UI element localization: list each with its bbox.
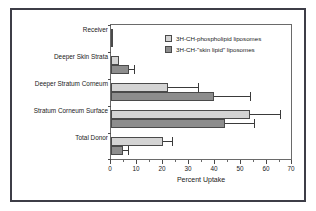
errorcap-total-donor-phospholipid	[172, 137, 173, 146]
legend-label-phospholipid: 3H-CH-phospholipid liposomes	[176, 35, 261, 42]
y-axis-label-2: Deeper Stratum Corneum	[35, 80, 108, 88]
bar-row-dss-dark	[111, 65, 291, 74]
errorcap-deeper-stratum-corneum-phospholipid	[198, 83, 199, 92]
x-tick-40	[214, 160, 215, 164]
x-tick-label-10: 10	[132, 165, 139, 172]
legend-item-phospholipid[interactable]: 3H-CH-phospholipid liposomes	[165, 33, 293, 43]
x-tick-label-0: 0	[108, 165, 112, 172]
x-tick-minor-35	[201, 160, 202, 162]
x-tick-label-50: 50	[236, 165, 243, 172]
errorcap-stratum-corneum-surface-phospholipid	[280, 110, 281, 119]
x-tick-10	[136, 160, 137, 164]
x-tick-60	[266, 160, 267, 164]
bar-row-td-dark	[111, 146, 291, 155]
x-tick-label-60: 60	[262, 165, 269, 172]
bar-group-total-donor	[111, 137, 291, 155]
x-tick-70	[291, 160, 292, 164]
bar-row-dss-light	[111, 56, 291, 65]
errorbar-stratum-corneum-surface-skinlipid	[225, 123, 254, 124]
bar-group-deeper-skin-strata	[111, 56, 291, 74]
x-axis-title: Percent Uptake	[110, 176, 292, 183]
errorbar-deeper-stratum-corneum-phospholipid	[168, 87, 198, 88]
legend: 3H-CH-phospholipid liposomes 3H-CH-"skin…	[165, 33, 293, 55]
x-tick-label-40: 40	[210, 165, 217, 172]
errorbar-deeper-stratum-corneum-skinlipid	[214, 96, 250, 97]
errorbar-total-donor-phospholipid	[163, 141, 172, 142]
errorcap-deeper-stratum-corneum-skinlipid	[250, 92, 251, 101]
legend-label-skinlipid: 3H-CH-"skin lipid" liposomes	[176, 46, 255, 53]
x-tick-50	[240, 160, 241, 164]
bar-stratum-corneum-surface-phospholipid[interactable]	[111, 110, 250, 119]
y-axis-label-4: Total Donor	[75, 134, 108, 142]
bar-group-stratum-corneum-surface	[111, 110, 291, 128]
bar-row-dsc-light	[111, 83, 291, 92]
y-tick-3	[108, 106, 111, 107]
errorcap-total-donor-skinlipid	[128, 146, 129, 155]
bar-receiver-phospholipid[interactable]	[111, 29, 113, 38]
y-tick-2	[108, 79, 111, 80]
x-tick-label-20: 20	[158, 165, 165, 172]
x-tick-label-70: 70	[287, 165, 294, 172]
bar-total-donor-phospholipid[interactable]	[111, 137, 163, 146]
y-axis-label-1: Deeper Skin Strata	[54, 53, 108, 61]
bar-stratum-corneum-surface-skinlipid[interactable]	[111, 119, 225, 128]
errorcap-stratum-corneum-surface-skinlipid	[254, 119, 255, 128]
bar-deeper-stratum-corneum-skinlipid[interactable]	[111, 92, 214, 101]
bar-total-donor-skinlipid[interactable]	[111, 146, 123, 155]
y-axis-label-3: Stratum Corneum Surface	[34, 107, 108, 115]
x-tick-minor-45	[227, 160, 228, 162]
bar-row-scs-light	[111, 110, 291, 119]
bar-deeper-stratum-corneum-phospholipid[interactable]	[111, 83, 168, 92]
x-tick-minor-55	[253, 160, 254, 162]
plot-area: 3H-CH-phospholipid liposomes 3H-CH-"skin…	[110, 24, 292, 160]
legend-swatch-icon-skinlipid	[165, 46, 172, 53]
x-tick-minor-5	[123, 160, 124, 162]
x-tick-30	[188, 160, 189, 164]
bar-row-scs-dark	[111, 119, 291, 128]
errorbar-stratum-corneum-surface-phospholipid	[250, 114, 280, 115]
x-tick-minor-65	[279, 160, 280, 162]
x-tick-20	[162, 160, 163, 164]
bar-deeper-skin-strata-phospholipid[interactable]	[111, 56, 119, 65]
x-tick-0	[110, 160, 111, 164]
bar-deeper-skin-strata-skinlipid[interactable]	[111, 65, 129, 74]
y-tick-4	[108, 133, 111, 134]
bar-group-deeper-stratum-corneum	[111, 83, 291, 101]
figure-frame: Receiver Deeper Skin Strata Deeper Strat…	[10, 8, 306, 202]
bar-row-td-light	[111, 137, 291, 146]
x-tick-minor-15	[149, 160, 150, 162]
x-tick-minor-25	[175, 160, 176, 162]
bar-chart: Receiver Deeper Skin Strata Deeper Strat…	[12, 10, 304, 200]
legend-swatch-icon-phospholipid	[165, 35, 172, 42]
legend-item-skinlipid[interactable]: 3H-CH-"skin lipid" liposomes	[165, 44, 293, 54]
x-tick-label-30: 30	[184, 165, 191, 172]
y-axis-label-0: Receiver	[83, 26, 108, 34]
y-tick-1	[108, 52, 111, 53]
y-axis-labels: Receiver Deeper Skin Strata Deeper Strat…	[12, 24, 108, 160]
y-tick-0	[108, 25, 111, 26]
errorcap-deeper-skin-strata-skinlipid	[134, 65, 135, 74]
bar-row-dsc-dark	[111, 92, 291, 101]
bar-receiver-skinlipid[interactable]	[111, 38, 113, 47]
